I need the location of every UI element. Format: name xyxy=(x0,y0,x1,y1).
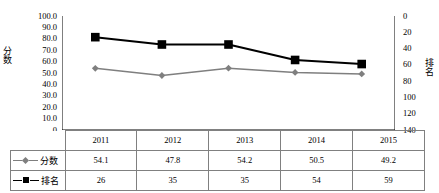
table-header-year: 2012 xyxy=(137,131,209,151)
square-marker-icon xyxy=(23,177,29,183)
table-row-years: 20112012201320142015 xyxy=(11,131,425,151)
table-cell: 54.2 xyxy=(209,150,281,170)
left-axis-title: 分数 xyxy=(2,46,12,64)
table-header-year: 2014 xyxy=(281,131,353,151)
legend-line-icon xyxy=(29,160,38,161)
left-tick-30-0: 30.0 xyxy=(13,91,57,100)
right-tick-80: 80 xyxy=(403,77,433,86)
legend-key-1: 分数 xyxy=(11,150,66,170)
legend-line-icon xyxy=(13,180,22,181)
table-header-year: 2013 xyxy=(209,131,281,151)
left-tick-100-0: 100.0 xyxy=(13,12,57,21)
table-cell: 54.1 xyxy=(65,150,137,170)
left-tick-20-0: 20.0 xyxy=(13,103,57,112)
table-cell: 49.2 xyxy=(353,150,425,170)
plot-area xyxy=(62,16,395,130)
right-tick-40: 40 xyxy=(403,44,433,53)
series-2 xyxy=(91,33,366,68)
left-tick-50-0: 50.0 xyxy=(13,69,57,78)
table-row: 分数54.147.854.250.549.2 xyxy=(11,150,425,170)
right-tick-20: 20 xyxy=(403,28,433,37)
table-cell: 35 xyxy=(209,170,281,190)
left-tick-60-0: 60.0 xyxy=(13,57,57,66)
table-row: 排名2635355459 xyxy=(11,170,425,190)
table-cell: 35 xyxy=(137,170,209,190)
table-header-year: 2011 xyxy=(65,131,137,151)
chart-figure: 分数 排名 100.090.080.070.060.050.040.030.02… xyxy=(0,0,439,193)
right-tick-0: 0 xyxy=(403,12,433,21)
table-cell: 47.8 xyxy=(137,150,209,170)
legend-label: 排名 xyxy=(40,174,59,187)
right-tick-100: 100 xyxy=(403,93,433,102)
table-cell: 26 xyxy=(65,170,137,190)
right-tick-120: 120 xyxy=(403,109,433,118)
left-tick-10-0: 10.0 xyxy=(13,114,57,123)
legend-label: 分数 xyxy=(39,154,58,167)
left-tick-70-0: 70.0 xyxy=(13,46,57,55)
series-canvas xyxy=(62,16,395,130)
table-cell: 54 xyxy=(281,170,353,190)
diamond-marker-icon xyxy=(22,156,29,163)
left-tick-90-0: 90.0 xyxy=(13,23,57,32)
table-corner-cell xyxy=(11,131,66,151)
legend-line-icon xyxy=(30,180,39,181)
table-cell: 59 xyxy=(353,170,425,190)
left-tick-40-0: 40.0 xyxy=(13,80,57,89)
table-header-year: 2015 xyxy=(353,131,425,151)
data-table-grid: 20112012201320142015分数54.147.854.250.549… xyxy=(10,130,425,191)
table-cell: 50.5 xyxy=(281,150,353,170)
legend-key-2: 排名 xyxy=(11,170,66,190)
left-tick-80-0: 80.0 xyxy=(13,34,57,43)
data-table: 20112012201320142015分数54.147.854.250.549… xyxy=(10,130,425,191)
right-tick-60: 60 xyxy=(403,60,433,69)
series-1 xyxy=(92,65,365,79)
